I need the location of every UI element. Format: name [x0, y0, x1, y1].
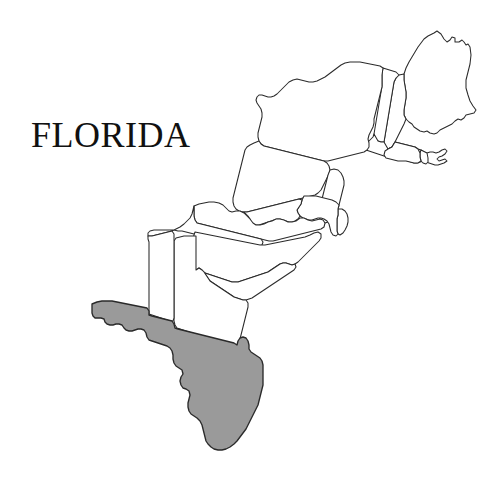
- state-rhode-island[interactable]: [420, 150, 428, 164]
- map-title: FLORIDA: [31, 116, 191, 154]
- map-figure: FLORIDA: [0, 0, 503, 485]
- state-new-york[interactable]: [256, 62, 383, 161]
- eastern-us-map: [0, 0, 503, 485]
- state-alabama[interactable]: [148, 231, 174, 321]
- state-maine[interactable]: [404, 31, 476, 134]
- state-delaware[interactable]: [337, 209, 348, 235]
